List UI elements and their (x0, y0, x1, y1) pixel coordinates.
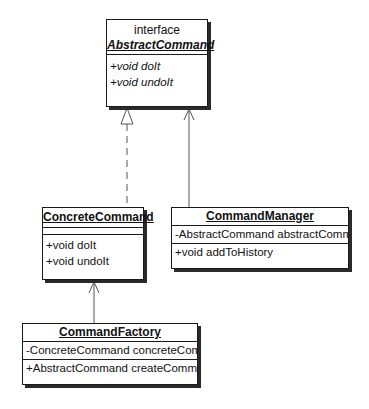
class-command-factory[interactable]: CommandFactory -ConcreteCommand concrete… (22, 323, 198, 385)
class-header: interface AbstractCommand (107, 20, 207, 55)
operation: +AbstractCommand createComma (26, 360, 194, 377)
class-name: AbstractCommand (107, 38, 207, 53)
operation: +void undoIt (110, 74, 204, 90)
hollow-triangle-arrowhead-icon (121, 108, 133, 124)
class-header: CommandFactory (23, 324, 197, 342)
class-name: ConcreteCommand (43, 208, 143, 225)
class-concrete-command[interactable]: ConcreteCommand +void doIt +void undoIt (42, 207, 144, 280)
class-header: CommandManager (172, 208, 348, 226)
class-abstract-command[interactable]: interface AbstractCommand +void doIt +vo… (106, 19, 208, 107)
attribute: -AbstractCommand abstractComm (175, 226, 345, 243)
operation: +void doIt (110, 58, 204, 74)
attributes-compartment (43, 228, 143, 235)
class-name: CommandFactory (23, 324, 197, 340)
class-name: CommandManager (172, 208, 348, 224)
operation: +void addToHistory (175, 244, 345, 261)
operation: +void doIt (46, 237, 140, 253)
attribute: -ConcreteCommand concreteCom (26, 342, 194, 359)
class-command-manager[interactable]: CommandManager -AbstractCommand abstract… (171, 207, 349, 269)
realization-connector (121, 108, 133, 208)
attributes-compartment: -ConcreteCommand concreteCom (23, 342, 197, 360)
operations-compartment: +void doIt +void undoIt (107, 55, 207, 92)
operations-compartment: +AbstractCommand createComma (23, 360, 197, 377)
attributes-compartment: -AbstractCommand abstractComm (172, 226, 348, 244)
open-arrowhead-icon (184, 109, 194, 120)
stereotype-label: interface (107, 20, 207, 38)
operation: +void undoIt (46, 253, 140, 269)
operations-compartment: +void addToHistory (172, 244, 348, 261)
association-factory-to-concrete (89, 282, 99, 323)
class-header: ConcreteCommand (43, 208, 143, 228)
operations-compartment: +void doIt +void undoIt (43, 235, 143, 271)
open-arrowhead-icon (89, 282, 99, 293)
association-manager-to-abstract (184, 109, 194, 207)
